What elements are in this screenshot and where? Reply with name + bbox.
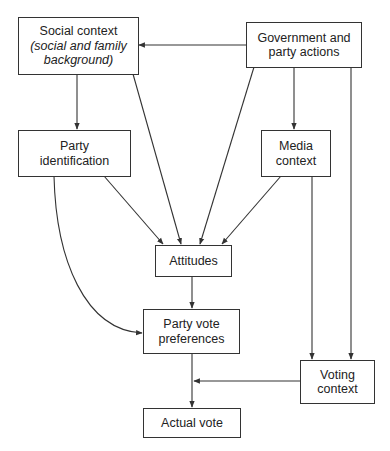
social-context-subtitle-2: background) bbox=[44, 53, 114, 68]
edge-government-to-attitudes bbox=[200, 67, 254, 244]
edge-media-to-attitudes bbox=[222, 176, 281, 244]
edge-partyid-to-preferences bbox=[54, 176, 142, 333]
party-identification-line2: identification bbox=[40, 154, 110, 169]
attitudes-label: Attitudes bbox=[169, 254, 218, 269]
edge-partyid-to-attitudes bbox=[104, 176, 163, 244]
government-line2: party actions bbox=[269, 45, 340, 60]
voting-context-line1: Voting bbox=[320, 368, 355, 383]
preferences-line2: preferences bbox=[158, 332, 224, 347]
voting-context-line2: context bbox=[317, 382, 357, 397]
media-context-line2: context bbox=[276, 154, 316, 169]
social-context-subtitle: (social and family bbox=[30, 39, 127, 54]
actual-vote-label: Actual vote bbox=[161, 416, 223, 431]
party-identification-line1: Party bbox=[60, 139, 89, 154]
preferences-line1: Party vote bbox=[163, 317, 219, 332]
node-party-identification: Party identification bbox=[18, 130, 131, 177]
node-government-actions: Government and party actions bbox=[246, 22, 362, 68]
social-context-title: Social context bbox=[40, 24, 118, 39]
media-context-line1: Media bbox=[279, 139, 313, 154]
government-line1: Government and bbox=[257, 31, 350, 46]
node-social-context: Social context (social and family backgr… bbox=[18, 17, 139, 75]
node-attitudes: Attitudes bbox=[155, 245, 232, 277]
node-voting-context: Voting context bbox=[300, 360, 375, 404]
node-party-vote-preferences: Party vote preferences bbox=[143, 309, 240, 354]
node-media-context: Media context bbox=[261, 130, 331, 177]
node-actual-vote: Actual vote bbox=[143, 408, 241, 438]
